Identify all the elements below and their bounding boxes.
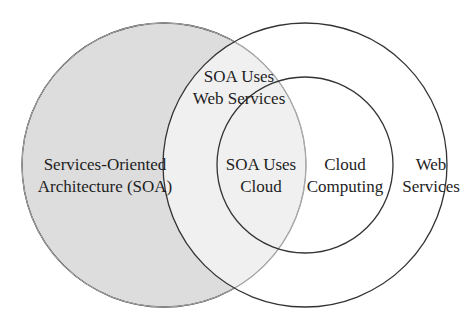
cloud-label-line-1: Cloud: [307, 154, 384, 176]
soa-cloud-label-line-1: SOA Uses: [226, 154, 296, 176]
soa-web-intersection-label: SOA Uses Web Services: [193, 66, 286, 110]
cloud-computing-label: Cloud Computing: [307, 154, 384, 198]
cloud-label-line-2: Computing: [307, 176, 384, 198]
soa-label-line-1: Services-Oriented: [38, 154, 173, 176]
web-label-line-2: Services: [402, 176, 460, 198]
soa-label: Services-Oriented Architecture (SOA): [38, 154, 173, 198]
soa-cloud-label-line-2: Cloud: [226, 176, 296, 198]
soa-web-label-line-1: SOA Uses: [193, 66, 286, 88]
web-services-label: Web Services: [402, 154, 460, 198]
soa-web-label-line-2: Web Services: [193, 88, 286, 110]
web-label-line-1: Web: [402, 154, 460, 176]
soa-cloud-intersection-label: SOA Uses Cloud: [226, 154, 296, 198]
soa-label-line-2: Architecture (SOA): [38, 176, 173, 198]
